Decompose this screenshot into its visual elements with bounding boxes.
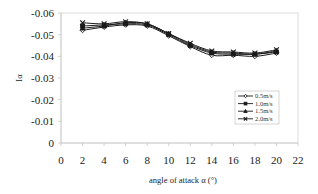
x-tick-label: 20 [271,154,283,166]
y-axis-label: Iα [14,74,24,82]
y-tick-label: -0.04 [31,50,54,62]
x-tick-label: 6 [123,154,129,166]
x-tick-label: 8 [144,154,150,166]
line-chart: 0-0.01-0.02-0.03-0.04-0.05-0.06 02468101… [0,0,318,194]
legend-label: 0.5m/s [255,92,273,99]
legend-label: 2.0m/s [255,115,273,122]
legend-label: 1.5m/s [255,107,273,114]
legend-label: 1.0m/s [255,100,273,107]
y-tick-label: -0.01 [31,115,54,127]
x-tick-label: 10 [163,154,175,166]
x-tick-label: 12 [185,154,196,166]
y-tick-label: -0.05 [31,29,54,41]
y-tick-label: -0.03 [31,72,54,84]
y-tick-label: 0 [49,137,55,149]
y-tick-label: -0.02 [31,94,54,106]
legend: 0.5m/s1.0m/s1.5m/s2.0m/s [235,91,279,124]
y-tick-label: -0.06 [31,7,54,19]
x-axis-label: angle of attack α (°) [149,175,217,185]
x-tick-label: 2 [80,154,86,166]
y-axis: 0-0.01-0.02-0.03-0.04-0.05-0.06 [31,7,61,149]
x-tick-label: 4 [101,154,107,166]
x-tick-label: 22 [293,154,304,166]
x-tick-label: 14 [206,154,218,166]
x-tick-label: 0 [58,154,64,166]
x-tick-label: 18 [249,154,261,166]
x-tick-label: 16 [228,154,240,166]
x-axis: 0246810121416182022 [58,143,303,166]
